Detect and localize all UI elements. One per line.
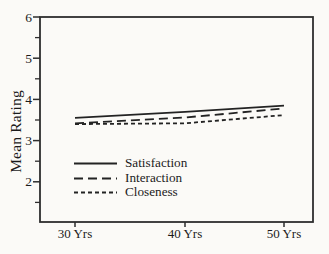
- legend-item-satisfaction: Satisfaction: [73, 156, 187, 171]
- legend-line-solid-icon: [73, 156, 119, 170]
- plot-area: 6543230 Yrs40 Yrs50 Yrs: [0, 0, 329, 254]
- legend-label-closeness: Closeness: [125, 184, 178, 200]
- legend-item-interaction: Interaction: [73, 171, 187, 186]
- y-tick-label: 5: [25, 51, 32, 66]
- y-tick-label: 6: [25, 10, 32, 25]
- y-tick-label: 2: [25, 174, 32, 189]
- x-tick-label: 40 Yrs: [168, 226, 203, 241]
- legend-line-long-dash-icon: [73, 171, 119, 185]
- y-tick-label: 4: [25, 92, 32, 107]
- line-chart-figure: 6543230 Yrs40 Yrs50 Yrs Mean Rating Sati…: [0, 0, 329, 254]
- x-tick-label: 50 Yrs: [267, 226, 302, 241]
- legend-item-closeness: Closeness: [73, 185, 187, 200]
- x-tick-label: 30 Yrs: [58, 226, 93, 241]
- legend: Satisfaction Interaction Closeness: [73, 156, 187, 200]
- legend-label-interaction: Interaction: [125, 170, 182, 186]
- legend-line-short-dash-icon: [73, 185, 119, 199]
- series-line-satisfaction: [75, 106, 284, 118]
- y-axis-title: Mean Rating: [7, 73, 24, 191]
- y-tick-label: 3: [25, 133, 32, 148]
- legend-label-satisfaction: Satisfaction: [125, 155, 187, 171]
